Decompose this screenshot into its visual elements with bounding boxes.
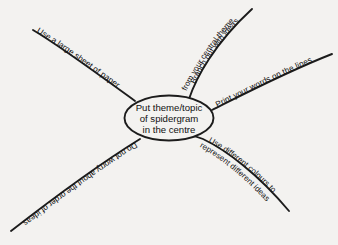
center-node-line-2: of spidergram bbox=[140, 113, 199, 124]
center-node-line-1: Put theme/topic bbox=[136, 102, 203, 113]
branch-label-top-center-text-2: from your central theme bbox=[180, 16, 236, 92]
branch-label-right: Print your words on the lines bbox=[214, 55, 314, 110]
spidergram-canvas: Put theme/topic of spidergram in the cen… bbox=[0, 0, 338, 245]
branch-label-top-left: Use a large sheet of paper bbox=[35, 25, 122, 90]
branch-label-bottom-left-text: Do not worry about the order of ideas bbox=[21, 140, 139, 228]
branch-label-top-center-line-2: from your central theme bbox=[180, 16, 236, 92]
branch-line-bottom-right bbox=[178, 136, 289, 211]
branch-label-bottom-right-line-1: Use different colours to bbox=[207, 136, 278, 195]
branch-label-bottom-right-text-1: Use different colours to bbox=[207, 136, 278, 195]
branch-label-top-left-text: Use a large sheet of paper bbox=[35, 25, 122, 90]
center-node-line-3: in the centre bbox=[143, 124, 196, 135]
branch-label-bottom-left: Do not worry about the order of ideas bbox=[21, 140, 139, 228]
branch-label-right-text: Print your words on the lines bbox=[214, 55, 314, 110]
spidergram-diagram: Put theme/topic of spidergram in the cen… bbox=[0, 0, 338, 245]
